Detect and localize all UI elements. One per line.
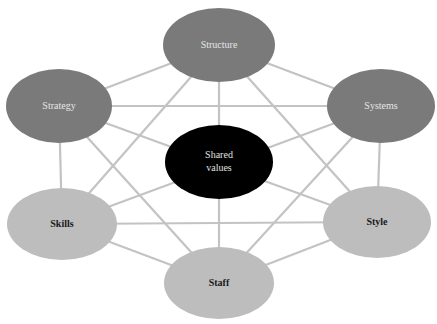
node-style: Style <box>323 186 431 258</box>
node-label-skills: Skills <box>50 218 73 229</box>
node-label-structure: Structure <box>201 39 238 50</box>
node-label-style: Style <box>366 216 388 227</box>
node-systems: Systems <box>327 69 435 143</box>
node-shared-values: Shared values <box>165 125 273 199</box>
node-label-shared-values-line1: Shared <box>205 149 233 160</box>
node-skills: Skills <box>7 188 117 260</box>
node-label-shared-values-line2: values <box>206 162 232 173</box>
node-label-strategy: Strategy <box>42 100 75 111</box>
node-staff: Staff <box>164 247 274 319</box>
node-strategy: Strategy <box>6 69 112 143</box>
node-label-staff: Staff <box>209 277 230 288</box>
node-structure: Structure <box>163 8 275 82</box>
node-label-systems: Systems <box>364 100 397 111</box>
seven-s-diagram: Structure Strategy Systems Shared values… <box>0 0 437 324</box>
